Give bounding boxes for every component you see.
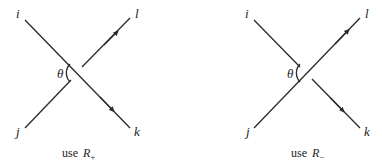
label-i: i [16,6,20,21]
left-diagram: i l j k θ use R+ [14,6,140,161]
caption-left: use R+ [62,146,95,161]
crossing-diagrams: i l j k θ use R+ i l j k θ use R− [0,0,382,161]
label-k: k [134,124,140,139]
arrow-l-icon [335,31,348,45]
label-l: l [135,6,139,21]
arrow-k-icon [330,98,343,111]
label-j: j [14,124,20,139]
strand-i-upper [254,20,300,67]
angle-arc [66,64,70,82]
strand-j-lower [25,80,71,128]
caption-right: use R− [291,146,324,161]
label-j: j [244,124,250,139]
arrow-l-icon [104,32,117,45]
label-l: l [365,6,369,21]
right-diagram: i l j k θ use R− [244,6,370,161]
arrow-k-icon [100,97,113,110]
label-theta: θ [57,66,64,81]
label-k: k [364,124,370,139]
label-theta: θ [287,66,294,81]
label-i: i [245,6,249,21]
